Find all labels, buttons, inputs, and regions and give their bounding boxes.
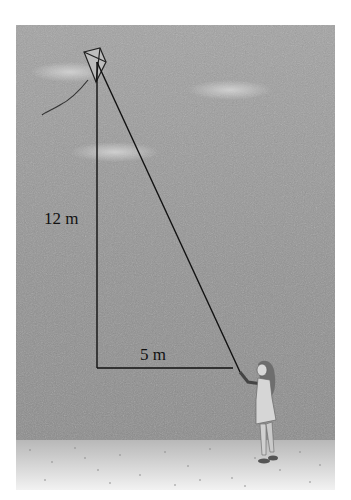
scene-illustration: [0, 0, 351, 500]
height-label: 12 m: [44, 209, 78, 229]
ground: [16, 440, 335, 490]
base-label: 5 m: [140, 345, 166, 365]
kite-triangle-figure: 12 m 5 m: [0, 0, 351, 500]
cloud: [188, 80, 272, 100]
cloud: [70, 142, 160, 162]
